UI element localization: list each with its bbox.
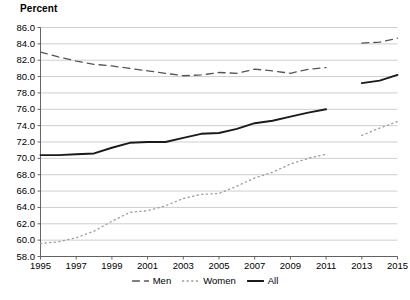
- legend-label: Men: [153, 276, 171, 286]
- y-tick-label: 76.0: [2, 104, 35, 114]
- axis-lines-group: [38, 28, 398, 260]
- legend-item-all[interactable]: All: [247, 276, 279, 286]
- x-tick-label: 1999: [95, 261, 129, 271]
- y-tick-label: 60.0: [2, 235, 35, 245]
- y-tick-label: 74.0: [2, 121, 35, 131]
- dotted-line-swatch: [182, 277, 199, 285]
- y-tick-label: 72.0: [2, 137, 35, 147]
- x-tick-label: 1995: [24, 261, 58, 271]
- y-tick-label: 78.0: [2, 88, 35, 98]
- y-tick-label: 84.0: [2, 39, 35, 49]
- y-tick-label: 66.0: [2, 186, 35, 196]
- series-line-men: [41, 52, 327, 76]
- series-line-women: [41, 154, 327, 243]
- legend-item-women[interactable]: Women: [182, 276, 236, 286]
- gridlines-group: [41, 28, 398, 257]
- x-tick-label: 2013: [345, 261, 379, 271]
- solid-line-swatch: [247, 277, 264, 285]
- x-tick-label: 2011: [309, 261, 343, 271]
- x-tick-label: 1997: [59, 261, 93, 271]
- plot-area: [0, 0, 410, 300]
- x-tick-label: 2007: [238, 261, 272, 271]
- legend-label: Women: [203, 276, 236, 286]
- x-tick-label: 2015: [381, 261, 410, 271]
- y-tick-label: 80.0: [2, 72, 35, 82]
- series-line-all: [362, 75, 398, 83]
- y-tick-label: 68.0: [2, 170, 35, 180]
- series-line-women: [362, 122, 398, 136]
- chart-figure: Percent 58.060.062.064.066.068.070.072.0…: [0, 0, 410, 300]
- y-tick-label: 64.0: [2, 202, 35, 212]
- chart-legend: MenWomenAll: [0, 276, 410, 286]
- data-series-group: [41, 38, 398, 243]
- legend-label: All: [268, 276, 279, 286]
- legend-item-men[interactable]: Men: [132, 276, 171, 286]
- series-line-men: [362, 38, 398, 43]
- x-tick-label: 2009: [273, 261, 307, 271]
- y-tick-label: 82.0: [2, 55, 35, 65]
- x-tick-label: 2001: [131, 261, 165, 271]
- series-line-all: [41, 109, 327, 155]
- y-tick-label: 62.0: [2, 219, 35, 229]
- y-tick-label: 86.0: [2, 23, 35, 33]
- y-tick-label: 70.0: [2, 153, 35, 163]
- x-tick-label: 2003: [166, 261, 200, 271]
- x-tick-label: 2005: [202, 261, 236, 271]
- dashed-line-swatch: [132, 277, 149, 285]
